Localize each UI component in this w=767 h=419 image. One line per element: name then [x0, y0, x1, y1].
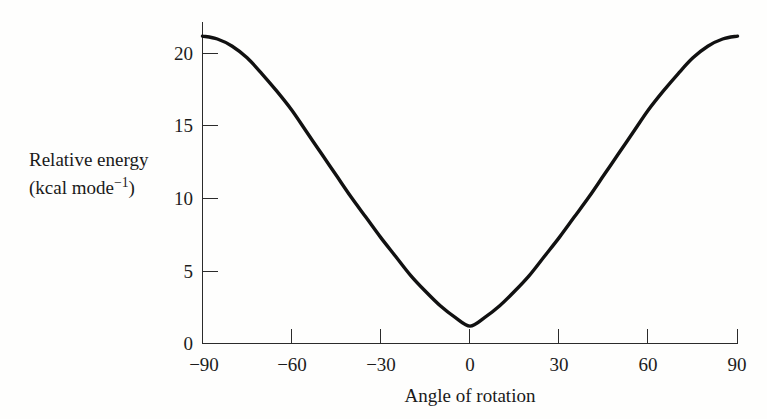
x-tick-label-0: 0 — [465, 354, 475, 375]
x-tick-label-minus30: −30 — [366, 354, 396, 375]
y-axis-title-line1: Relative energy — [29, 146, 179, 174]
energy-curve-line — [203, 36, 738, 326]
y-axis-title-unit-prefix: (kcal mode — [29, 177, 114, 198]
chart-figure: 20 15 10 5 0 −90 −60 −30 0 30 60 90 Rela… — [0, 0, 767, 419]
x-tick-label-90: 90 — [728, 354, 747, 375]
x-axis-tick-labels: −90 −60 −30 0 30 60 90 — [189, 354, 746, 375]
x-axis-ticks — [292, 329, 738, 344]
y-tick-label-0: 0 — [184, 333, 194, 354]
x-tick-label-60: 60 — [639, 354, 658, 375]
y-axis-title: Relative energy (kcal mode−1) — [29, 146, 179, 201]
y-tick-label-20: 20 — [174, 43, 193, 64]
x-tick-label-30: 30 — [550, 354, 569, 375]
y-axis-title-unit-exponent: −1 — [114, 174, 129, 189]
x-tick-label-minus60: −60 — [277, 354, 307, 375]
axes — [203, 22, 738, 344]
y-axis-ticks — [203, 54, 218, 272]
x-tick-label-minus90: −90 — [189, 354, 219, 375]
y-tick-label-5: 5 — [184, 261, 194, 282]
y-tick-label-15: 15 — [174, 115, 193, 136]
x-axis-title: Angle of rotation — [202, 385, 738, 407]
data-series-relative-energy — [203, 36, 738, 326]
y-axis-title-line2: (kcal mode−1) — [29, 174, 179, 202]
y-axis-title-unit-suffix: ) — [128, 177, 134, 198]
chart-canvas: 20 15 10 5 0 −90 −60 −30 0 30 60 90 — [0, 0, 767, 419]
